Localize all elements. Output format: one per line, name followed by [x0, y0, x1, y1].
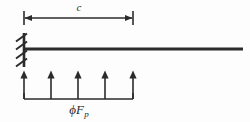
dimension-label-c: c — [0, 2, 158, 13]
support-hatch-stroke — [16, 51, 27, 59]
support-hatch-stroke — [16, 59, 27, 67]
support-hatch-stroke — [16, 34, 27, 42]
load-arrow-head — [101, 71, 108, 79]
dimension-line-group — [24, 11, 133, 25]
load-arrows-group — [20, 71, 136, 100]
beam-diagram-figure: c ϕFp — [0, 0, 250, 122]
load-arrow-head — [129, 71, 136, 79]
dimension-arrowhead-left — [25, 15, 33, 21]
load-label-subscript: p — [84, 109, 89, 119]
dimension-arrowhead-right — [125, 15, 133, 21]
load-label-main: F — [76, 102, 84, 117]
load-arrow — [101, 71, 108, 100]
load-arrow-head — [74, 71, 81, 79]
load-arrow — [47, 71, 54, 100]
load-arrow — [74, 71, 81, 100]
load-arrow-head — [20, 71, 27, 79]
load-magnitude-label: ϕFp — [0, 103, 158, 119]
load-arrow-head — [47, 71, 54, 79]
